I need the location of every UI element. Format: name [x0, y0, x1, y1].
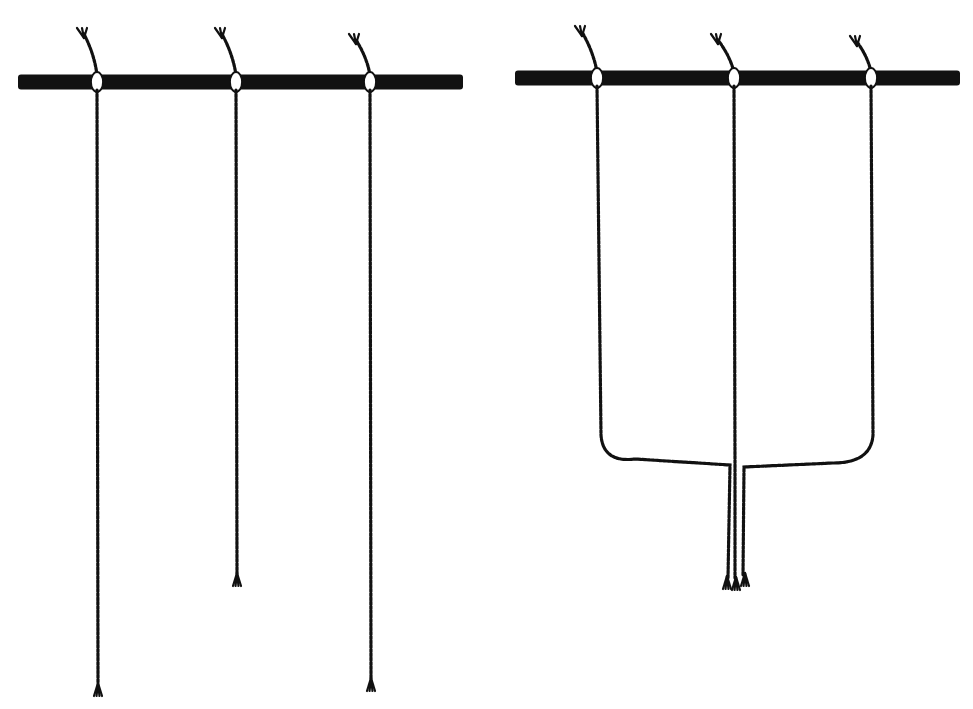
cord-end-top [222, 34, 236, 75]
tassel-end [367, 678, 375, 691]
cord-end-top [356, 40, 370, 75]
hanging-cord [236, 90, 237, 573]
tassel-end [233, 573, 241, 586]
cord-mounting-diagram [0, 0, 973, 709]
hanging-cord [370, 90, 371, 678]
panel-right [515, 26, 960, 590]
tassel-end [94, 683, 102, 696]
center-cord [734, 86, 735, 578]
outer-cord-right [743, 86, 873, 576]
cord-end-top [718, 40, 734, 72]
tassel-end [723, 576, 731, 589]
cord-end-top [582, 32, 597, 72]
panel-left [18, 28, 463, 696]
hanging-cord [97, 90, 98, 683]
cord-end-top [84, 34, 97, 75]
outer-cord-left [597, 86, 730, 578]
cord-end-top [857, 42, 871, 72]
tassel-end [732, 577, 740, 590]
